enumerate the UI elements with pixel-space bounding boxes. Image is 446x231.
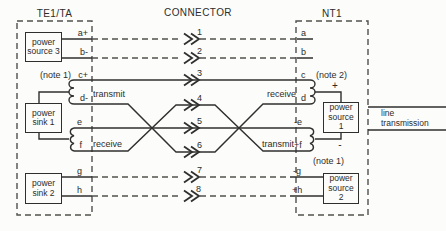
wire-label-left-e: e	[65, 117, 82, 128]
te-note-1: (note 1)	[34, 70, 71, 81]
wire-label-left-c: c+	[71, 70, 88, 81]
line-transmission-label: line transmission	[381, 109, 437, 128]
connector-title: CONNECTOR	[148, 7, 248, 18]
wire-label-right-e: -e	[294, 117, 302, 128]
power-source-2-box: power source 2	[323, 173, 359, 204]
pin-number-3: 3	[197, 68, 202, 79]
wire-label-right-g: -g	[293, 166, 301, 177]
pin-number-4: 4	[197, 93, 202, 104]
minus-polarity-mark: -	[334, 139, 346, 150]
wiring-lines	[0, 0, 446, 231]
power-sink-2-box: power sink 2	[25, 173, 62, 204]
nt1-source1-minus-tap	[315, 132, 341, 139]
wire-label-right-d: d	[301, 93, 306, 104]
wire-label-left-h: h	[65, 185, 82, 196]
wire-label-left-b: b-	[71, 47, 88, 58]
wire-label-right-h: +h	[292, 185, 302, 196]
te-transmit-label: transmit	[93, 89, 125, 100]
power-source-3-label: power source 3	[27, 38, 60, 57]
pin-number-2: 2	[197, 46, 202, 57]
wire-label-left-g: g	[65, 166, 82, 177]
power-sink-1-box: power sink 1	[25, 103, 62, 133]
wire-label-right-a: a	[301, 28, 306, 39]
wire-label-left-a: a+	[71, 28, 88, 39]
nt1-receive-winding	[310, 80, 315, 104]
te-sink1-bottom-tap	[39, 132, 69, 139]
nt1-note-1: (note 1)	[313, 156, 344, 167]
pin-number-5: 5	[197, 116, 202, 127]
power-source-1-label: power source 1	[325, 103, 357, 132]
wire-label-right-f: +f	[294, 140, 302, 151]
power-sink-2-label: power sink 2	[27, 179, 60, 198]
wire-label-left-f: f	[65, 140, 82, 151]
te-title: TE1/TA	[17, 8, 92, 19]
pin-number-6: 6	[197, 140, 202, 151]
nt1-title: NT1	[296, 8, 368, 19]
pin-number-1: 1	[197, 27, 202, 38]
wire-label-right-c: c	[301, 70, 306, 81]
te-receive-label: receive	[93, 139, 122, 150]
nt1-receive-label: receive	[256, 89, 296, 100]
wire-label-left-d: d-	[71, 93, 88, 104]
wiring-diagram: TE1/TA CONNECTOR NT1 power source 3 powe…	[0, 0, 446, 231]
nt1-transmit-label: transmit	[254, 139, 294, 150]
power-source-1-box: power source 1	[323, 102, 359, 133]
power-source-2-label: power source 2	[325, 174, 357, 203]
power-sink-1-label: power sink 1	[27, 109, 60, 128]
nt1-transmit-winding	[310, 128, 314, 151]
plus-polarity-mark: +	[329, 80, 341, 91]
power-source-3-box: power source 3	[25, 32, 62, 62]
pin-number-8: 8	[196, 184, 201, 195]
wire-label-right-b: b	[301, 47, 306, 58]
pin-number-7: 7	[197, 165, 202, 176]
